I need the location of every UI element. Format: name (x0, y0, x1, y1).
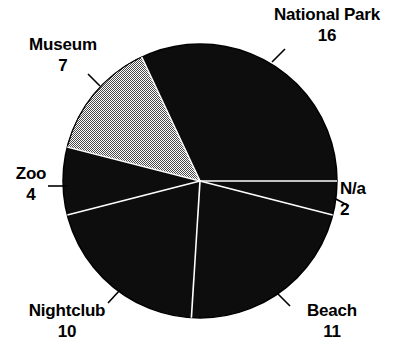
pie-label-zoo: Zoo 4 (0, 163, 62, 205)
pie-label-beach-name: Beach (287, 300, 377, 321)
pie-label-museum-value: 7 (0, 55, 126, 76)
pie-label-beach: Beach 11 (287, 300, 377, 342)
leader-line-national-park (272, 49, 285, 62)
pie-label-na: N/a 2 (340, 178, 400, 220)
pie-label-nightclub-value: 10 (8, 321, 126, 342)
pie-label-museum: Museum 7 (0, 34, 126, 76)
pie-label-nightclub-name: Nightclub (8, 300, 126, 321)
pie-label-nightclub: Nightclub 10 (8, 300, 126, 342)
pie-label-national-park: National Park 16 (253, 4, 401, 46)
pie-label-na-value: 2 (340, 199, 400, 220)
pie-label-zoo-value: 4 (0, 184, 62, 205)
pie-chart: National Park 16 Museum 7 Zoo 4 N/a 2 Ni… (0, 0, 402, 364)
pie-label-national-park-value: 16 (253, 25, 401, 46)
pie-label-na-name: N/a (340, 178, 400, 199)
pie-label-beach-value: 11 (287, 321, 377, 342)
pie-label-zoo-name: Zoo (0, 163, 62, 184)
pie-label-national-park-name: National Park (253, 4, 401, 25)
pie-label-museum-name: Museum (0, 34, 126, 55)
